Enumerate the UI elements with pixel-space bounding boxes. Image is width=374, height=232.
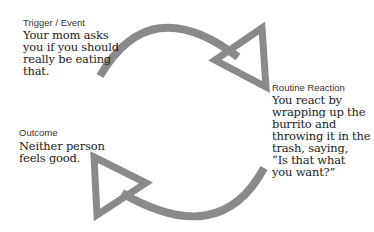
text-line: you want?” (272, 166, 374, 178)
trigger-text: Your mom asks you if you should really b… (23, 29, 123, 77)
arrowhead-top-icon (215, 28, 266, 87)
text-line: feels good. (19, 152, 119, 164)
arrow-trigger-to-routine (100, 28, 266, 87)
trigger-label: Trigger / Event (23, 17, 85, 28)
arrowhead-bottom-icon (94, 157, 146, 215)
arc-bottom (122, 168, 264, 216)
routine-text: You react by wrapping up the burrito and… (272, 94, 374, 178)
routine-label: Routine Reaction (272, 82, 345, 93)
outcome-label: Outcome (19, 127, 58, 138)
text-line: that. (23, 65, 123, 77)
arrow-routine-to-outcome (94, 157, 264, 216)
outcome-text: Neither person feels good. (19, 140, 119, 164)
